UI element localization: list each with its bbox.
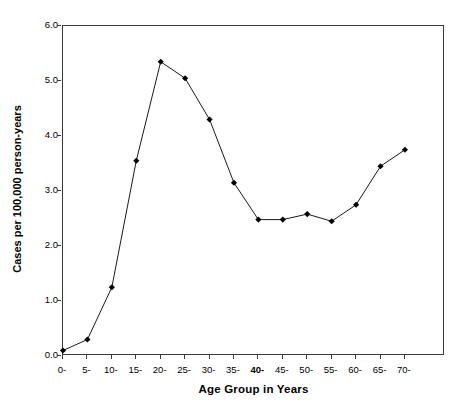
- data-point-marker: [280, 217, 286, 223]
- y-axis-tick-label: 6.0: [28, 20, 58, 30]
- x-axis-tick-mark: [184, 355, 185, 359]
- data-point-marker: [133, 158, 139, 164]
- data-point-marker: [206, 116, 212, 122]
- y-axis-tick-label: 4.0: [28, 130, 58, 140]
- data-point-marker: [182, 75, 188, 81]
- x-axis-tick-mark: [135, 355, 136, 359]
- x-axis-tick-mark: [257, 355, 258, 359]
- x-axis-tick-mark: [233, 355, 234, 359]
- y-axis-title: Cases per 100,000 person-years: [6, 20, 28, 358]
- y-axis-tick-mark: [57, 355, 61, 356]
- x-axis-tick-mark: [331, 355, 332, 359]
- x-axis-tick-mark: [62, 355, 63, 359]
- plot-area: [62, 25, 444, 355]
- y-axis-tick-label: 2.0: [28, 240, 58, 250]
- x-axis-tick-marks: [62, 355, 445, 360]
- x-axis-tick-mark: [282, 355, 283, 359]
- data-point-marker: [304, 211, 310, 217]
- x-axis-tick-mark: [111, 355, 112, 359]
- y-axis-tick-mark: [57, 80, 61, 81]
- data-point-marker: [377, 163, 383, 169]
- chart-figure: Cases per 100,000 person-years 0.01.02.0…: [0, 0, 468, 415]
- data-point-marker: [231, 180, 237, 186]
- x-axis-tick-mark: [209, 355, 210, 359]
- x-axis-tick-mark: [404, 355, 405, 359]
- data-point-marker: [84, 336, 90, 342]
- y-axis-tick-mark: [57, 135, 61, 136]
- x-axis-tick-mark: [355, 355, 356, 359]
- y-axis-tick-labels: 0.01.02.03.04.05.06.0: [26, 25, 58, 355]
- data-point-marker: [402, 147, 408, 153]
- y-axis-tick-mark: [57, 245, 61, 246]
- y-axis-tick-label: 1.0: [28, 295, 58, 305]
- data-point-marker: [329, 218, 335, 224]
- y-axis-tick-mark: [57, 300, 61, 301]
- x-axis-tick-mark: [160, 355, 161, 359]
- y-axis-tick-mark: [57, 190, 61, 191]
- series-polyline: [63, 62, 405, 351]
- x-axis-tick-label: 70-: [389, 364, 419, 376]
- y-axis-tick-label: 3.0: [28, 185, 58, 195]
- x-axis-tick-mark: [380, 355, 381, 359]
- data-point-marker: [353, 202, 359, 208]
- x-axis-tick-mark: [86, 355, 87, 359]
- data-point-marker: [158, 59, 164, 65]
- y-axis-tick-mark: [57, 25, 61, 26]
- x-axis-title: Age Group in Years: [62, 383, 445, 395]
- x-axis-tick-labels: 0-5-10-15-20-25-30-35-40-45-50-55-60-65-…: [62, 364, 445, 378]
- y-axis-title-text: Cases per 100,000 person-years: [11, 105, 23, 273]
- data-point-marker: [255, 217, 261, 223]
- y-axis-tick-label: 0.0: [28, 350, 58, 360]
- data-series-line: [63, 26, 445, 356]
- y-axis-tick-label: 5.0: [28, 75, 58, 85]
- data-point-marker: [109, 284, 115, 290]
- x-axis-tick-mark: [306, 355, 307, 359]
